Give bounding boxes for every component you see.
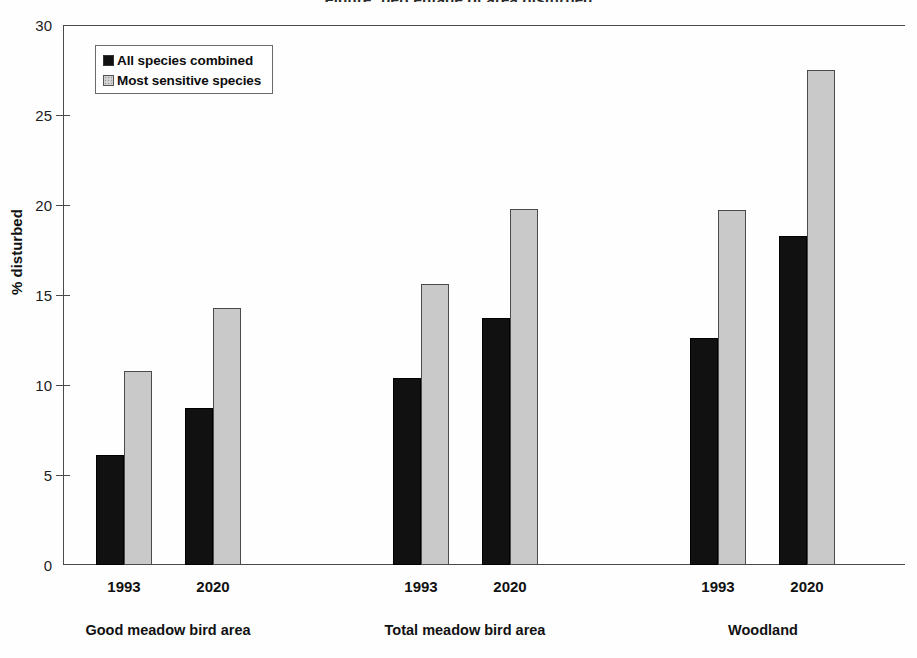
y-tick-mark xyxy=(56,295,70,296)
bar-total-2020-sensitive xyxy=(510,209,538,565)
x-year-label-4: 1993 xyxy=(701,578,734,595)
plot-area: 051015202530 xyxy=(63,25,905,565)
x-year-label-1: 2020 xyxy=(196,578,229,595)
bar-wood-1993-sensitive xyxy=(718,210,746,565)
bar-total-1993-sensitive xyxy=(421,284,449,565)
x-year-label-0: 1993 xyxy=(107,578,140,595)
y-tick-label: 0 xyxy=(44,557,52,574)
legend-label-all-species: All species combined xyxy=(117,53,253,68)
bar-wood-2020-sensitive xyxy=(807,70,835,565)
y-tick-label: 30 xyxy=(35,17,52,34)
y-tick-label: 25 xyxy=(35,107,52,124)
bar-wood-2020-all xyxy=(779,236,807,565)
x-year-label-5: 2020 xyxy=(790,578,823,595)
bar-good-1993-sensitive xyxy=(124,371,152,565)
y-tick-label: 5 xyxy=(44,467,52,484)
x-group-label-2: Woodland xyxy=(728,622,798,638)
bar-good-2020-sensitive xyxy=(213,308,241,565)
bar-good-1993-all xyxy=(96,455,124,565)
x-group-label-1: Total meadow bird area xyxy=(385,622,546,638)
y-tick-mark xyxy=(56,475,70,476)
y-axis-title: % disturbed xyxy=(8,209,25,295)
dark-square-icon xyxy=(103,55,114,66)
x-year-label-3: 2020 xyxy=(493,578,526,595)
y-tick-mark xyxy=(56,205,70,206)
bar-good-2020-all xyxy=(185,408,213,565)
chart-page: Figure: percentage of area disturbed % d… xyxy=(0,0,917,658)
x-year-label-2: 1993 xyxy=(404,578,437,595)
bar-total-1993-all xyxy=(393,378,421,565)
y-tick-mark xyxy=(56,385,70,386)
y-tick-mark xyxy=(56,115,70,116)
bar-wood-1993-all xyxy=(690,338,718,565)
y-tick-label: 20 xyxy=(35,197,52,214)
legend-item-sensitive-species: Most sensitive species xyxy=(103,70,266,90)
y-tick-label: 15 xyxy=(35,287,52,304)
chart-legend: All species combined Most sensitive spec… xyxy=(95,45,273,94)
legend-label-sensitive-species: Most sensitive species xyxy=(117,73,261,88)
legend-item-all-species: All species combined xyxy=(103,50,266,70)
bar-total-2020-all xyxy=(482,318,510,565)
plot-border-top xyxy=(63,25,905,26)
light-square-icon xyxy=(103,75,114,86)
x-group-label-0: Good meadow bird area xyxy=(85,622,250,638)
y-tick-label: 10 xyxy=(35,377,52,394)
chart-title-cropped: Figure: percentage of area disturbed xyxy=(0,0,917,2)
